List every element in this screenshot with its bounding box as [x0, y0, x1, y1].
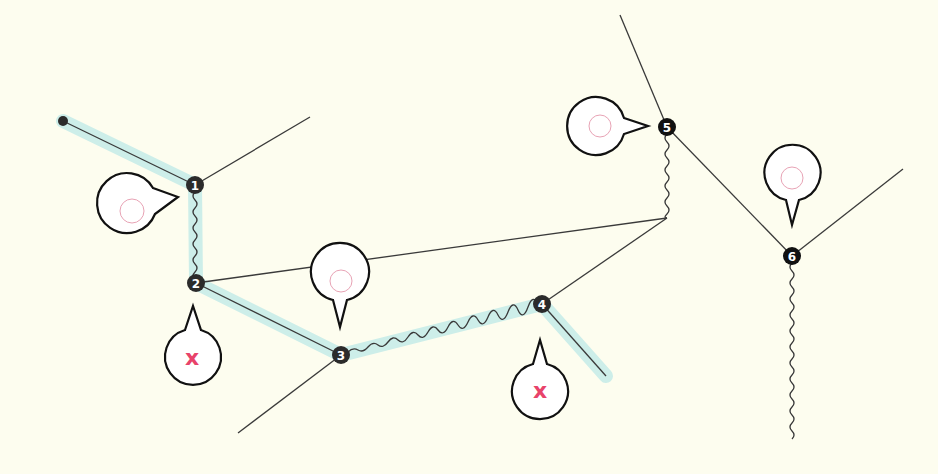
- callout-node-3[interactable]: [311, 243, 369, 327]
- callout-node-5[interactable]: [567, 97, 648, 155]
- edge-3-branch: [238, 355, 341, 433]
- wavy-connections: [193, 134, 794, 439]
- node-5[interactable]: 5: [658, 118, 676, 136]
- cross-icon: x: [533, 378, 547, 403]
- edge-2-junction: [196, 218, 667, 283]
- svg-text:5: 5: [663, 121, 671, 135]
- edge-1-branch: [195, 117, 310, 185]
- svg-text:6: 6: [788, 250, 796, 264]
- node-1[interactable]: 1: [186, 176, 204, 194]
- edge-top-5: [620, 15, 667, 127]
- node-4[interactable]: 4: [533, 295, 551, 313]
- node-3[interactable]: 3: [332, 346, 350, 364]
- callout-node-6[interactable]: [765, 145, 821, 225]
- cross-icon: x: [185, 345, 199, 370]
- callout-node-1[interactable]: [97, 173, 178, 233]
- svg-text:2: 2: [192, 277, 200, 291]
- wavy-edge-6-down: [790, 263, 794, 439]
- wavy-edge-5-junction: [665, 134, 669, 218]
- route-diagram: x x 1 2 3 4 5 6: [0, 0, 938, 474]
- diagram-canvas: x x 1 2 3 4 5 6: [0, 0, 938, 474]
- svg-text:4: 4: [538, 298, 546, 312]
- node-2[interactable]: 2: [187, 274, 205, 292]
- callout-node-2[interactable]: x: [165, 306, 221, 385]
- svg-text:1: 1: [191, 179, 199, 193]
- edge-4-junction: [542, 218, 667, 304]
- node-6[interactable]: 6: [783, 247, 801, 265]
- svg-text:3: 3: [337, 349, 345, 363]
- callout-node-4[interactable]: x: [512, 340, 568, 419]
- route-start-dot: [58, 116, 68, 126]
- callouts: x x: [97, 97, 820, 419]
